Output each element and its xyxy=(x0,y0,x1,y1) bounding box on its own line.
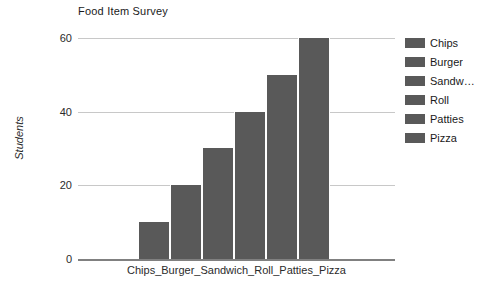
legend-label: Roll xyxy=(430,94,449,106)
chart-figure: Food Item Survey 60 40 20 0 Students Chi… xyxy=(0,0,490,297)
y-axis-title: Students xyxy=(13,103,25,173)
legend-item-burger[interactable]: Burger xyxy=(405,52,490,71)
legend-swatch-icon xyxy=(405,133,425,143)
legend-label: Burger xyxy=(430,56,463,68)
x-axis-line xyxy=(78,259,395,261)
legend-swatch-icon xyxy=(405,76,425,86)
legend-item-chips[interactable]: Chips xyxy=(405,33,490,52)
bar-pizza[interactable] xyxy=(298,38,330,259)
bar-sandwich[interactable] xyxy=(202,148,234,259)
legend-label: Chips xyxy=(430,37,458,49)
chart-title: Food Item Survey xyxy=(78,5,168,17)
x-axis-title: Chips_Burger_Sandwich_Roll_Patties_Pizza xyxy=(78,264,395,276)
legend-item-sandwich[interactable]: Sandw… xyxy=(405,71,490,90)
legend-label: Sandw… xyxy=(430,75,475,87)
legend-label: Patties xyxy=(430,113,464,125)
chart-legend: Chips Burger Sandw… Roll Patties Pizza xyxy=(405,33,490,147)
legend-item-pizza[interactable]: Pizza xyxy=(405,128,490,147)
bar-roll[interactable] xyxy=(234,112,266,259)
legend-swatch-icon xyxy=(405,57,425,67)
bar-patties[interactable] xyxy=(266,75,298,259)
legend-item-roll[interactable]: Roll xyxy=(405,90,490,109)
legend-swatch-icon xyxy=(405,114,425,124)
y-tick-label-20: 20 xyxy=(12,179,72,191)
y-tick-label-0: 0 xyxy=(12,253,72,265)
bar-burger[interactable] xyxy=(170,185,202,259)
plot-area xyxy=(78,38,395,259)
bar-chips[interactable] xyxy=(138,222,170,259)
legend-label: Pizza xyxy=(430,132,457,144)
y-tick-label-60: 60 xyxy=(12,32,72,44)
legend-swatch-icon xyxy=(405,95,425,105)
legend-swatch-icon xyxy=(405,38,425,48)
bars-layer xyxy=(78,38,395,259)
legend-item-patties[interactable]: Patties xyxy=(405,109,490,128)
